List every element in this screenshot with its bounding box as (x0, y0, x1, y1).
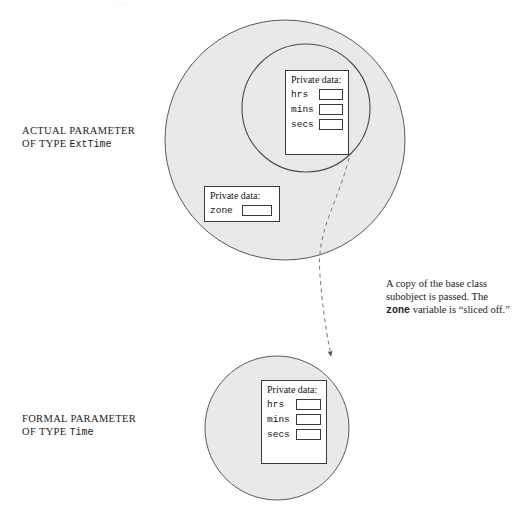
field-slot-mins[interactable] (319, 104, 343, 115)
slicing-annotation-part1: A copy of the base class subobject is pa… (386, 278, 488, 302)
actual-parameter-type-name: ExtTime (70, 139, 112, 150)
zone-variable-code: zone (386, 305, 410, 316)
field-label-zone: zone (210, 205, 240, 217)
formal-parameter-caption: FORMAL PARAMETER OF TYPE Time (22, 412, 136, 439)
field-slot-mins[interactable] (296, 414, 321, 425)
private-data-title: Private data: (210, 190, 274, 202)
field-row: mins (291, 103, 343, 116)
field-row: secs (291, 118, 343, 131)
field-slot-secs[interactable] (319, 119, 343, 130)
formal-parameter-private-data-box: Private data: hrs mins secs (261, 380, 327, 464)
actual-parameter-caption-prefix: OF TYPE (22, 138, 70, 149)
field-slot-zone[interactable] (242, 205, 272, 216)
diagram-canvas: · · · · ACTUAL PARAMETER OF TYPE ExtTime… (0, 0, 521, 514)
field-row: hrs (291, 88, 343, 101)
field-label-secs: secs (267, 429, 294, 441)
field-label-hrs: hrs (291, 89, 317, 101)
field-slot-hrs[interactable] (296, 399, 321, 410)
formal-parameter-caption-line1: FORMAL PARAMETER (22, 412, 136, 425)
actual-parameter-caption-line2: OF TYPE ExtTime (22, 137, 135, 151)
base-subobject-private-data-box: Private data: hrs mins secs (285, 70, 349, 155)
field-label-hrs: hrs (267, 399, 294, 411)
actual-parameter-caption-line1: ACTUAL PARAMETER (22, 124, 135, 137)
zone-private-data-box: Private data: zone (204, 186, 280, 222)
private-data-title: Private data: (291, 74, 343, 86)
slicing-annotation-part2: variable is “sliced off.” (410, 304, 510, 315)
private-data-title: Private data: (267, 384, 321, 396)
slicing-annotation: A copy of the base class subobject is pa… (386, 277, 514, 318)
field-row: secs (267, 428, 321, 441)
field-row: hrs (267, 398, 321, 411)
field-slot-hrs[interactable] (319, 89, 343, 100)
field-slot-secs[interactable] (296, 429, 321, 440)
field-label-mins: mins (291, 104, 317, 116)
field-row: mins (267, 413, 321, 426)
field-row: zone (210, 204, 274, 217)
field-label-secs: secs (291, 119, 317, 131)
formal-parameter-caption-prefix: OF TYPE (22, 426, 70, 437)
formal-parameter-type-name: Time (70, 427, 94, 438)
formal-parameter-caption-line2: OF TYPE Time (22, 425, 136, 439)
actual-parameter-caption: ACTUAL PARAMETER OF TYPE ExtTime (22, 124, 135, 151)
field-label-mins: mins (267, 414, 294, 426)
